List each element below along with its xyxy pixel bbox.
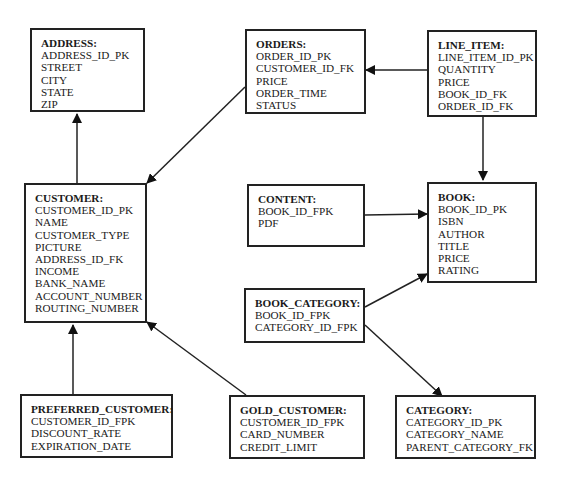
entity-content: CONTENT: BOOK_ID_FPK PDF [247, 184, 365, 247]
entity-attribute: ISBN [438, 215, 527, 227]
entity-attribute: CATEGORY_ID_PK [406, 416, 526, 428]
entity-line-item: LINE_ITEM: LINE_ITEM_ID_PK QUANTITY PRIC… [427, 30, 537, 117]
entity-title: GOLD_CUSTOMER: [240, 404, 355, 416]
entity-gold-customer: GOLD_CUSTOMER: CUSTOMER_ID_FPK CARD_NUMB… [229, 395, 365, 459]
entity-customer: CUSTOMER: CUSTOMER_ID_PK NAME CUSTOMER_T… [24, 183, 147, 323]
entity-attribute: STATE [41, 86, 135, 98]
entity-attribute: CUSTOMER_ID_FPK [31, 415, 163, 427]
entity-attribute: CUSTOMER_ID_FPK [240, 416, 355, 428]
entity-title: CUSTOMER: [35, 192, 137, 204]
entity-attribute: ADDRESS_ID_FK [35, 253, 137, 265]
entity-attribute: BOOK_ID_FK [438, 88, 527, 100]
entity-title: PREFERRED_CUSTOMER: [31, 403, 163, 415]
entity-attribute: CATEGORY_ID_FPK [255, 321, 355, 333]
entity-attribute: BOOK_ID_FPK [258, 205, 355, 217]
entity-attribute: CITY [41, 74, 135, 86]
entity-attribute: ORDER_TIME [256, 87, 356, 99]
entity-attribute: CREDIT_LIMIT [240, 441, 355, 453]
entity-attribute: ADDRESS_ID_PK [41, 49, 135, 61]
entity-attribute: PDF [258, 217, 355, 229]
relationship-content-book [365, 214, 427, 215]
entity-attribute: STATUS [256, 99, 356, 111]
entity-attribute: INCOME [35, 265, 137, 277]
entity-book-category: BOOK_CATEGORY: BOOK_ID_FPK CATEGORY_ID_F… [244, 288, 365, 343]
entity-attribute: TITLE [438, 240, 527, 252]
entity-title: ADDRESS: [41, 37, 135, 49]
entity-attribute: ACCOUNT_NUMBER [35, 290, 137, 302]
relationship-gold-customer [147, 322, 246, 395]
entity-attribute: ZIP [41, 98, 135, 110]
entity-title: BOOK_CATEGORY: [255, 297, 355, 309]
entity-book: BOOK: BOOK_ID_PK ISBN AUTHOR TITLE PRICE… [427, 182, 537, 283]
entity-attribute: AUTHOR [438, 228, 527, 240]
entity-attribute: EXPIRATION_DATE [31, 440, 163, 452]
entity-attribute: PRICE [438, 252, 527, 264]
entity-title: LINE_ITEM: [438, 39, 527, 51]
entity-attribute: BANK_NAME [35, 277, 137, 289]
relationship-bookcategory-book [365, 274, 427, 307]
entity-attribute: PRICE [438, 76, 527, 88]
entity-attribute: CUSTOMER_ID_FK [256, 62, 356, 74]
entity-attribute: LINE_ITEM_ID_PK [438, 51, 527, 63]
entity-attribute: CUSTOMER_ID_PK [35, 204, 137, 216]
entity-attribute: NAME [35, 216, 137, 228]
relationship-orders-customer [147, 87, 245, 183]
er-diagram-canvas: ADDRESS: ADDRESS_ID_PK STREET CITY STATE… [0, 0, 562, 484]
entity-attribute: QUANTITY [438, 63, 527, 75]
entity-attribute: PARENT_CATEGORY_FK [406, 441, 526, 453]
entity-attribute: ORDER_ID_FK [438, 100, 527, 112]
entity-title: CONTENT: [258, 193, 355, 205]
entity-address: ADDRESS: ADDRESS_ID_PK STREET CITY STATE… [30, 28, 145, 112]
entity-attribute: STREET [41, 61, 135, 73]
relationship-bookcategory-category [365, 325, 442, 396]
entity-attribute: CARD_NUMBER [240, 428, 355, 440]
entity-category: CATEGORY: CATEGORY_ID_PK CATEGORY_NAME P… [395, 395, 536, 459]
entity-preferred-customer: PREFERRED_CUSTOMER: CUSTOMER_ID_FPK DISC… [20, 394, 173, 458]
entity-attribute: PICTURE [35, 241, 137, 253]
entity-attribute: RATING [438, 264, 527, 276]
entity-title: CATEGORY: [406, 404, 526, 416]
entity-title: BOOK: [438, 191, 527, 203]
entity-attribute: BOOK_ID_PK [438, 203, 527, 215]
entity-attribute: CUSTOMER_TYPE [35, 229, 137, 241]
entity-orders: ORDERS: ORDER_ID_PK CUSTOMER_ID_FK PRICE… [245, 29, 366, 114]
entity-attribute: ORDER_ID_PK [256, 50, 356, 62]
entity-attribute: PRICE [256, 75, 356, 87]
entity-attribute: ROUTING_NUMBER [35, 302, 137, 314]
entity-title: ORDERS: [256, 38, 356, 50]
entity-attribute: BOOK_ID_FPK [255, 309, 355, 321]
entity-attribute: CATEGORY_NAME [406, 428, 526, 440]
entity-attribute: DISCOUNT_RATE [31, 427, 163, 439]
